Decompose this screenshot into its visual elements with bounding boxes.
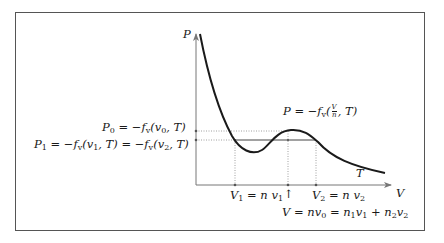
v1-tick-label: V1 = n v1 bbox=[230, 190, 283, 203]
p1-label: P1 = −fv(v1, T) = −fv(v2, T) bbox=[34, 139, 189, 152]
isotherm-label: T bbox=[356, 168, 364, 180]
v2-tick-label: V2 = n v2 bbox=[312, 190, 365, 203]
y-axis-label: P bbox=[183, 29, 191, 41]
p0-label: P0 = −fv(v0, T) bbox=[102, 122, 186, 135]
v0-arrow-marker: ↑ bbox=[284, 189, 294, 201]
volume-relation: V = nv0 = n1v1 + n2v2 bbox=[282, 207, 408, 220]
x-axis-label: V bbox=[396, 188, 404, 200]
curve-equation: P = −fv(Vn, T) bbox=[283, 104, 357, 119]
